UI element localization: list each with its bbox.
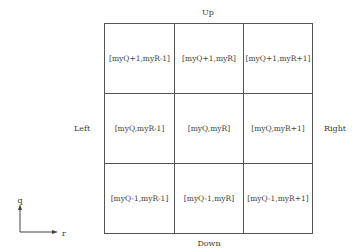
axis-r-label: r [62, 229, 66, 238]
neighbor-grid: [myQ+1,myR-1] [myQ+1,myR] [myQ+1,myR+1] … [104, 23, 313, 234]
cell-bottom-left: [myQ-1,myR-1] [105, 164, 175, 233]
cell-top-right: [myQ+1,myR+1] [244, 24, 312, 94]
cell-top-center: [myQ+1,myR] [175, 24, 244, 94]
cell-middle-right: [myQ,myR+1] [244, 94, 312, 164]
cell-bottom-center: [myQ-1,myR] [175, 164, 244, 233]
axis-indicator [14, 200, 64, 244]
direction-right-label: Right [324, 124, 346, 133]
cell-bottom-right: [myQ-1,myR+1] [244, 164, 312, 233]
axis-q-label: q [17, 196, 22, 205]
axis-arrows-icon [14, 200, 64, 240]
direction-left-label: Left [74, 124, 90, 133]
cell-center: [myQ,myR] [175, 94, 244, 164]
cell-middle-left: [myQ,myR-1] [105, 94, 175, 164]
direction-down-label: Down [197, 239, 220, 248]
cell-top-left: [myQ+1,myR-1] [105, 24, 175, 94]
direction-up-label: Up [202, 8, 214, 17]
